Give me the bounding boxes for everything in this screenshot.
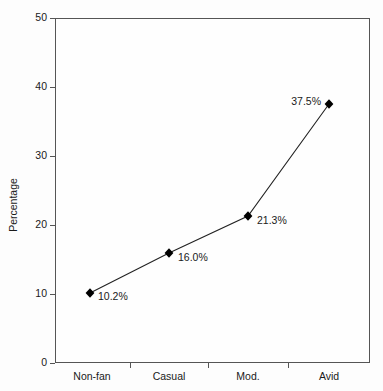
y-axis-tick-mark-30	[50, 156, 55, 157]
data-label-casual: 16.0%	[178, 251, 208, 264]
y-axis-tick-0: 0	[0, 363, 55, 364]
x-axis-tick-mark-3	[288, 363, 289, 368]
y-axis-tick-mark-20	[50, 225, 55, 226]
y-axis-tick-mark-40	[50, 87, 55, 88]
y-axis-tick-40: 40	[0, 87, 55, 88]
data-label-avid: 37.5%	[291, 95, 321, 108]
y-axis-tick-30: 30	[0, 156, 55, 157]
y-axis-tick-mark-0	[50, 363, 55, 364]
data-label-non-fan: 10.2%	[98, 290, 128, 303]
x-axis-tick-mark-2	[208, 363, 209, 368]
x-axis-label-mod: Mod.	[236, 369, 259, 383]
x-axis-label-non-fan: Non-fan	[73, 369, 110, 383]
y-axis-tick-label-30: 30	[35, 149, 47, 162]
y-axis-tick-50: 50	[0, 18, 55, 19]
y-axis-tick-label-20: 20	[35, 218, 47, 231]
y-axis-tick-20: 20	[0, 225, 55, 226]
line-chart: Percentage 50 40 30 20 10 0 Non-fan Casu…	[0, 0, 383, 391]
plot-area-frame	[55, 18, 370, 363]
x-axis-tick-mark-1	[130, 363, 131, 368]
y-axis-title: Percentage	[7, 178, 19, 232]
y-axis-tick-label-50: 50	[35, 11, 47, 24]
y-axis-tick-mark-10	[50, 294, 55, 295]
x-axis-label-avid: Avid	[319, 369, 339, 383]
x-axis-label-casual: Casual	[153, 369, 186, 383]
y-axis-tick-label-40: 40	[35, 80, 47, 93]
y-axis-tick-10: 10	[0, 294, 55, 295]
data-label-mod: 21.3%	[257, 214, 287, 227]
y-axis-tick-label-10: 10	[35, 287, 47, 300]
y-axis-tick-mark-50	[50, 18, 55, 19]
y-axis-tick-label-0: 0	[41, 356, 47, 369]
